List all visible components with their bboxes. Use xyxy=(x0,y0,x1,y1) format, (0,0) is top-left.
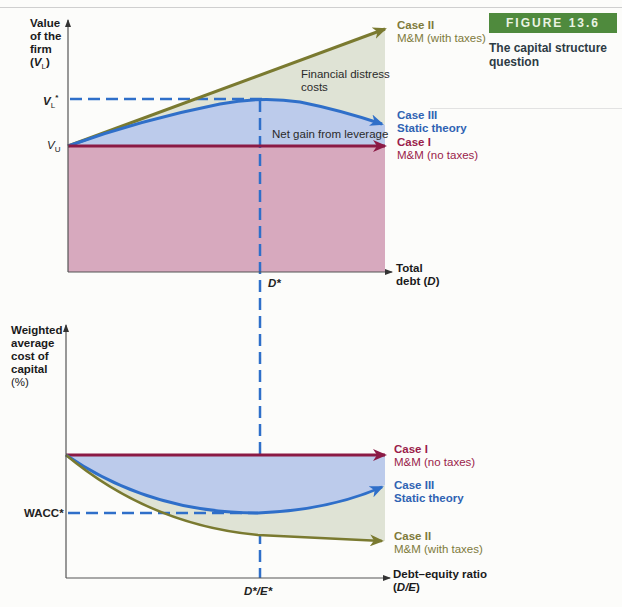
net-gain-label: Net gain from leverage xyxy=(272,128,388,141)
bottom-case2-legend: Case II M&M (with taxes) xyxy=(394,530,483,556)
y-title-line: (VL) xyxy=(30,56,61,73)
bottom-y-axis-title: Weighted average cost of capital (%) xyxy=(11,324,63,389)
bottom-case3-legend: Case III Static theory xyxy=(394,479,464,505)
bottom-case1-legend: Case I M&M (no taxes) xyxy=(394,443,475,469)
financial-distress-label: Financial distress costs xyxy=(301,68,390,94)
bottom-x-axis-title: Debt–equity ratio (D/E) xyxy=(393,568,487,594)
bottom-chart xyxy=(66,325,390,578)
y-title-line: of the xyxy=(30,30,61,43)
top-case1-legend: Case I M&M (no taxes) xyxy=(397,136,478,162)
top-case3-legend: Case III Static theory xyxy=(397,109,467,135)
figure-caption: The capital structure question xyxy=(489,41,622,69)
top-x-axis-title: Total debt (D) xyxy=(396,262,439,288)
wacc-star-label: WACC* xyxy=(24,507,64,520)
y-title-line: Value xyxy=(30,17,61,30)
top-case2-legend: Case II M&M (with taxes) xyxy=(397,19,486,45)
y-title-line: firm xyxy=(30,43,61,56)
figure-badge: FIGURE 13.6 xyxy=(489,13,617,33)
top-y-axis-title: Value of the firm (VL) xyxy=(30,17,61,73)
d-star-label: D* xyxy=(268,277,281,290)
vu-label: VU xyxy=(47,139,60,156)
case1-area xyxy=(68,146,385,272)
vl-star-label: VL* xyxy=(43,91,58,112)
de-star-label: D*/E* xyxy=(244,585,272,598)
